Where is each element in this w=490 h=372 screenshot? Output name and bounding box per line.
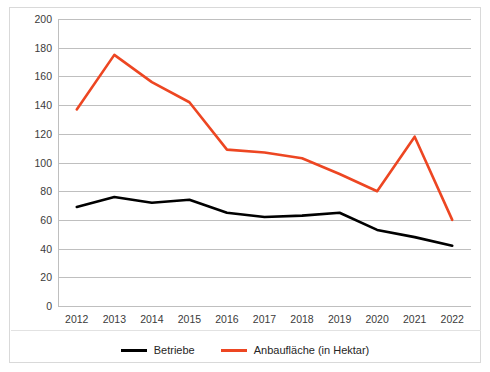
- y-tick-label-0: 0: [18, 301, 52, 312]
- x-axis-tick-labels: 2012201320142015201620172018201920202021…: [58, 313, 471, 331]
- x-tick-label-2015: 2015: [178, 313, 201, 327]
- y-tick-label-60: 60: [18, 215, 52, 226]
- x-tick-label-2019: 2019: [328, 313, 351, 327]
- x-tick-label-2021: 2021: [403, 313, 426, 327]
- gridline-0: [58, 306, 471, 307]
- series-line-anbaufl-che-in-hektar: [77, 55, 452, 220]
- y-axis-tick-labels: 020406080100120140160180200: [14, 19, 52, 306]
- x-tick-label-2022: 2022: [441, 313, 464, 327]
- x-tick-label-2017: 2017: [253, 313, 276, 327]
- x-tick-label-2016: 2016: [215, 313, 238, 327]
- y-tick-label-200: 200: [18, 14, 52, 25]
- x-tick-label-2018: 2018: [290, 313, 313, 327]
- x-tick-label-2012: 2012: [65, 313, 88, 327]
- y-tick-label-120: 120: [18, 129, 52, 140]
- y-tick-label-20: 20: [18, 272, 52, 283]
- legend-divider: [11, 330, 481, 331]
- x-tick-label-2020: 2020: [365, 313, 388, 327]
- legend-label: Anbaufläche (in Hektar): [254, 344, 370, 356]
- y-tick-label-40: 40: [18, 243, 52, 254]
- x-tick-label-2014: 2014: [140, 313, 163, 327]
- legend-line-icon-betriebe: [121, 349, 147, 352]
- series-line-betriebe: [77, 197, 452, 246]
- y-tick-label-180: 180: [18, 42, 52, 53]
- y-tick-label-100: 100: [18, 157, 52, 168]
- legend-item-betriebe[interactable]: Betriebe: [121, 344, 195, 356]
- legend-item-anbaufl-che-in-hektar[interactable]: Anbaufläche (in Hektar): [221, 344, 370, 356]
- legend-label: Betriebe: [154, 344, 195, 356]
- legend-line-icon-anbaufl-che-in-hektar: [221, 349, 247, 352]
- series-layer: [58, 19, 471, 306]
- y-tick-label-160: 160: [18, 71, 52, 82]
- chart-legend: BetriebeAnbaufläche (in Hektar): [10, 338, 480, 362]
- chart-container: 020406080100120140160180200 201220132014…: [9, 7, 481, 363]
- y-tick-label-140: 140: [18, 100, 52, 111]
- y-tick-label-80: 80: [18, 186, 52, 197]
- x-tick-label-2013: 2013: [103, 313, 126, 327]
